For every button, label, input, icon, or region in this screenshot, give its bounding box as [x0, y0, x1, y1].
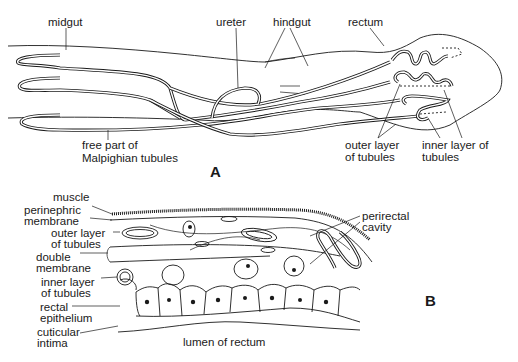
panel-label-a: A	[210, 163, 221, 180]
label-inner-layer-a-line1: inner layer of	[422, 140, 488, 151]
panel-a-drawing	[8, 28, 502, 140]
label-outer-layer-a-line1: outer layer	[345, 140, 399, 151]
label-outer-layer-a-line2: of tubules	[345, 152, 395, 163]
label-perinephric-line2: membrane	[24, 216, 79, 227]
label-perirectal-line2: cavity	[362, 222, 391, 233]
label-inner-layer-a-line2: tubules	[422, 152, 459, 163]
label-rectum: rectum	[348, 17, 383, 28]
label-inner-layer-b-line2: of tubules	[41, 288, 91, 299]
diagram-line-art	[0, 0, 518, 362]
label-double-membrane-line2: membrane	[36, 263, 91, 274]
label-free-part-line1: free part of	[82, 140, 138, 151]
label-muscle: muscle	[53, 192, 89, 203]
label-cuticular-intima-line2: intima	[37, 338, 68, 349]
label-free-part-line2: Malpighian tubules	[82, 153, 178, 164]
label-hindgut: hindgut	[273, 17, 311, 28]
label-outer-layer-b-line2: of tubules	[51, 239, 101, 250]
panel-b-drawing	[72, 206, 372, 333]
panel-label-b: B	[425, 292, 436, 309]
malpighian-tubule-diagram: midgut ureter hindgut rectum free part o…	[0, 0, 518, 362]
label-midgut: midgut	[48, 17, 83, 28]
label-ureter: ureter	[216, 17, 246, 28]
label-lumen-of-rectum: lumen of rectum	[183, 337, 265, 348]
label-rectal-epithelium-line2: epithelium	[40, 313, 92, 324]
